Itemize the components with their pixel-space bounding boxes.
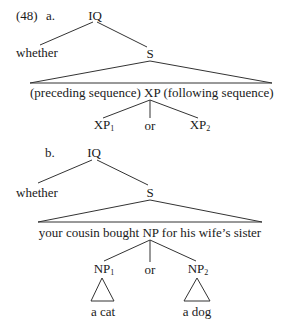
or-b: or [145,263,156,277]
tree-a-s: S [146,47,153,61]
tree-a-s-content: (preceding sequence) XP (following seque… [30,86,274,100]
tree-a-root: IQ [88,9,102,23]
tree-b-whether: whether [16,186,58,200]
branch-xp-xp2 [150,100,198,118]
tree-b-s-content: your cousin bought NP for his wife’s sis… [39,226,261,240]
tree-b-root: IQ [87,146,101,160]
s-triangle-a [30,61,272,83]
np2-triangle [184,278,210,301]
tree-a-label: a. [46,9,55,23]
tree-b-s: S [146,186,153,200]
xp-head: XP [144,85,160,100]
s-triangle-b [38,200,262,222]
np2-node: NP2 [188,262,209,280]
following-sequence: (following sequence) [163,85,273,100]
branch-xp-xp1 [103,100,150,118]
branch-iq-whether-a [40,22,93,45]
leaf-a-cat: a cat [91,305,115,319]
leaf-a-dog: a dog [183,305,212,319]
np1-node: NP1 [94,262,115,280]
xp2-node: XP2 [190,118,211,136]
branch-iq-s-b [97,160,148,185]
or-a: or [145,119,156,133]
tree-a-whether: whether [16,46,58,60]
branch-iq-whether-b [38,160,92,183]
branch-np-np2 [150,240,196,261]
np1-triangle [91,278,114,301]
example-number: (48) [16,9,38,23]
branch-np-np1 [104,240,150,261]
tree-b-label: b. [45,146,55,160]
xp1-node: XP1 [94,118,115,136]
preceding-sequence: (preceding sequence) [30,85,141,100]
branch-iq-s-a [97,22,147,47]
